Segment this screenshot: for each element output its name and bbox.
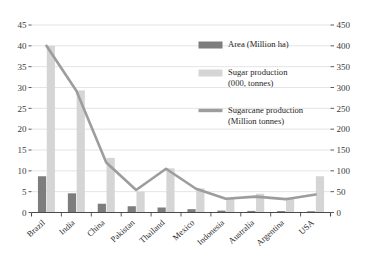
legend-label: Sugar production [228, 67, 288, 77]
chart-legend: Area (Million ha)Sugar production(000, t… [199, 39, 304, 126]
bar-area [68, 193, 76, 212]
right-axis-tick: 200 [337, 124, 351, 134]
right-axis-tick: 400 [337, 41, 351, 51]
legend-label: Sugarcane production [228, 105, 304, 115]
category-label: Mexico [170, 218, 196, 243]
left-axis-tick: 15 [18, 145, 28, 155]
sugarcane-chart: 051015202530354045 050100150200250300350… [0, 0, 373, 265]
right-axis-tick: 450 [337, 20, 351, 30]
category-label: Brazil [25, 217, 48, 239]
category-label: Argentina [254, 217, 286, 247]
left-axis-tick: 40 [18, 41, 28, 51]
right-axis-tick: 350 [337, 62, 351, 72]
left-axis-tick: 25 [18, 104, 28, 114]
category-label: USA [297, 217, 317, 236]
right-axis-tick: 300 [337, 83, 351, 93]
category-label: China [85, 217, 107, 238]
bar-sugar-production [226, 198, 234, 212]
legend-label: Area (Million ha) [228, 39, 289, 49]
category-label: India [57, 217, 77, 236]
left-axis-tick: 10 [18, 166, 28, 176]
category-label: Pakistan [108, 217, 137, 244]
left-axis-tick: 30 [18, 83, 28, 93]
bar-area [38, 176, 46, 212]
left-axis-tick: 45 [18, 20, 28, 30]
right-axis-tick: 50 [337, 187, 347, 197]
right-axis-tick: 0 [337, 208, 342, 218]
right-axis-tick-labels: 050100150200250300350400450 [331, 20, 351, 218]
right-axis-tick: 250 [337, 104, 351, 114]
chart-canvas: 051015202530354045 050100150200250300350… [0, 0, 373, 265]
legend-label: (000, tonnes) [228, 78, 273, 88]
axis-lines [32, 213, 331, 217]
legend-swatch [199, 70, 223, 77]
bar-sugar-production [316, 176, 324, 212]
category-label: Indonesia [195, 217, 226, 247]
bar-sugar-production [136, 192, 144, 213]
legend-swatch [199, 42, 223, 49]
bar-area [128, 206, 136, 212]
category-label: Australia [226, 217, 256, 245]
left-axis-tick: 35 [18, 62, 28, 72]
left-axis-tick: 0 [22, 208, 27, 218]
left-axis-tick-labels: 051015202530354045 [18, 20, 32, 218]
left-axis-tick: 20 [18, 124, 28, 134]
category-axis-labels: BrazilIndiaChinaPakistanThailandMexicoIn… [25, 217, 317, 248]
left-axis-tick: 5 [22, 187, 27, 197]
category-label: Thailand [137, 217, 167, 245]
right-axis-tick: 150 [337, 145, 351, 155]
bar-area [158, 208, 166, 213]
right-axis-tick: 100 [337, 166, 351, 176]
legend-label: (Million tonnes) [228, 116, 284, 126]
bar-sugar-production [47, 46, 55, 213]
bar-area [98, 204, 106, 213]
